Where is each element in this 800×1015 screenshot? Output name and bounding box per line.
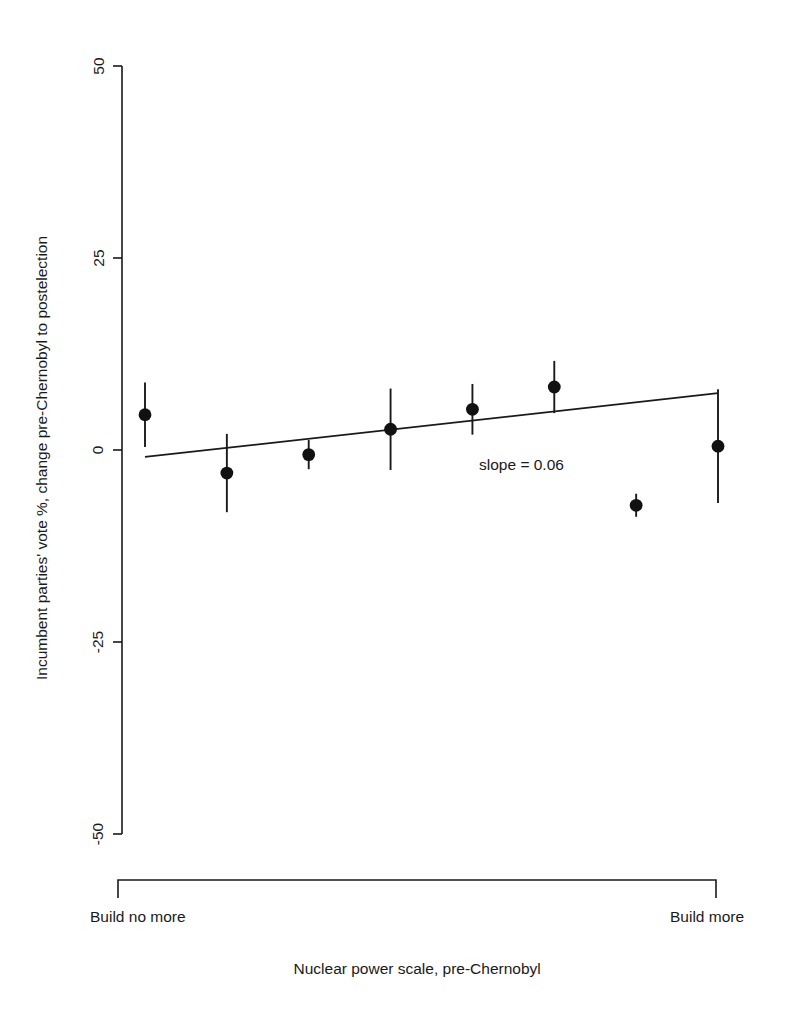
data-point-7 [630,499,643,512]
y-tick-label-0: 0 [89,446,107,455]
regression-line [145,393,718,457]
data-point-1 [139,408,152,421]
y-axis-title: Incumbent parties' vote %, change pre-Ch… [33,236,51,680]
plot-canvas [0,0,800,1015]
data-point-5 [466,403,479,416]
y-tick-label--25: -25 [89,631,107,653]
x-axis-left-end-label: Build no more [90,908,186,926]
y-tick-label-25: 25 [89,249,107,266]
x-axis-bracket [118,880,716,898]
slope-annotation: slope = 0.06 [479,456,564,474]
y-tick-label--50: -50 [89,823,107,845]
data-point-6 [548,381,561,394]
data-point-8 [712,440,725,453]
x-axis-title: Nuclear power scale, pre-Chernobyl [294,960,541,978]
data-point-3 [302,448,315,461]
x-axis-bracket-line [118,880,716,898]
data-points-group [139,361,725,517]
y-tick-label-50: 50 [89,57,107,74]
nuclear-power-vote-change-scatter-plot: Incumbent parties' vote %, change pre-Ch… [0,0,800,1015]
data-point-2 [220,467,233,480]
x-axis-right-end-label: Build more [670,908,744,926]
y-axis [113,66,122,834]
data-point-4 [384,423,397,436]
trend-line [145,393,718,457]
